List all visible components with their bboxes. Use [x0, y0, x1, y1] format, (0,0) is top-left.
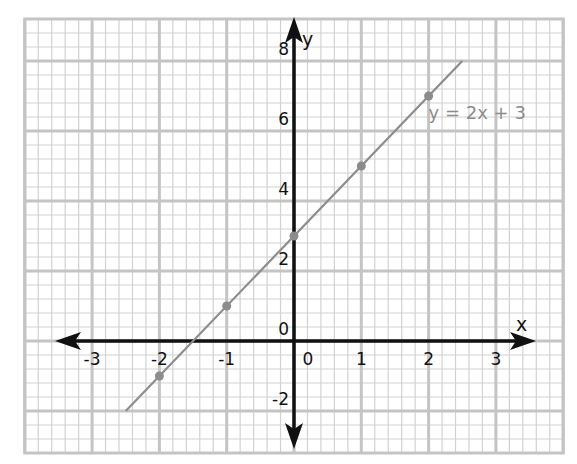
x-tick-label: 3: [490, 349, 501, 369]
data-point: [424, 92, 433, 101]
y-tick-label: 4: [278, 179, 289, 199]
y-tick-label: -2: [272, 389, 289, 409]
x-tick-label: 0: [303, 349, 314, 369]
y-tick-label: 0: [278, 319, 289, 339]
y-tick-label: 6: [278, 109, 289, 129]
y-axis-label: y: [302, 28, 313, 50]
equation-label: y = 2x + 3: [429, 102, 526, 123]
y-tick-label: 8: [278, 39, 289, 59]
data-point: [155, 372, 164, 381]
data-point: [222, 302, 231, 311]
x-tick-label: -3: [84, 349, 101, 369]
x-axis-label: x: [516, 313, 527, 335]
x-tick-label: 2: [423, 349, 434, 369]
x-tick-label: 1: [356, 349, 367, 369]
data-point: [290, 232, 299, 241]
x-tick-label: -1: [218, 349, 235, 369]
data-point: [357, 162, 366, 171]
x-tick-label: -2: [151, 349, 168, 369]
coordinate-plane: -3-2-10123-202468 x y y = 2x + 3: [0, 0, 577, 464]
